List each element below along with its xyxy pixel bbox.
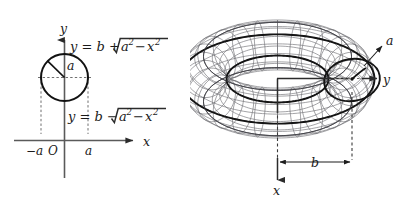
center-radius-label-b: b (311, 155, 319, 170)
radius-segment (48, 61, 65, 78)
equation-lower-lhs: y = b − (67, 109, 118, 124)
figure-svg: a y x O −a a y = b + a 2 − x 2 (0, 0, 414, 201)
tick-label-minus-a: −a (26, 144, 43, 158)
equation-lower-x-exponent: 2 (152, 107, 158, 117)
equation-lower-a-exponent: 2 (126, 107, 132, 117)
equation-upper-minus: − (135, 39, 146, 54)
equation-upper-x-exponent: 2 (154, 37, 160, 47)
equation-upper-lhs: y = b + (69, 39, 120, 54)
x-axis-label-left: x (143, 134, 150, 149)
equation-lower: y = b − a 2 − x 2 (67, 107, 166, 125)
figure-root: a y x O −a a y = b + a 2 − x 2 (0, 0, 414, 201)
y-axis-label-right: y (382, 72, 391, 87)
equation-upper-a-exponent: 2 (128, 37, 134, 47)
x-axis-label-right: x (273, 183, 280, 198)
radius-label-a: a (67, 58, 74, 73)
y-axis-label-left: y (59, 21, 68, 36)
tick-label-a: a (85, 144, 92, 158)
origin-label: O (48, 144, 58, 158)
right-diagram-group: a b y x (181, 20, 394, 198)
equation-lower-minus: − (133, 109, 144, 124)
left-diagram-group: a y x O −a a y = b + a 2 − x 2 (14, 21, 168, 178)
equation-upper: y = b + a 2 − x 2 (69, 37, 168, 55)
equation-lower-x: x (145, 109, 153, 124)
equation-upper-x: x (147, 39, 155, 54)
tube-radius-label-a: a (386, 33, 393, 48)
